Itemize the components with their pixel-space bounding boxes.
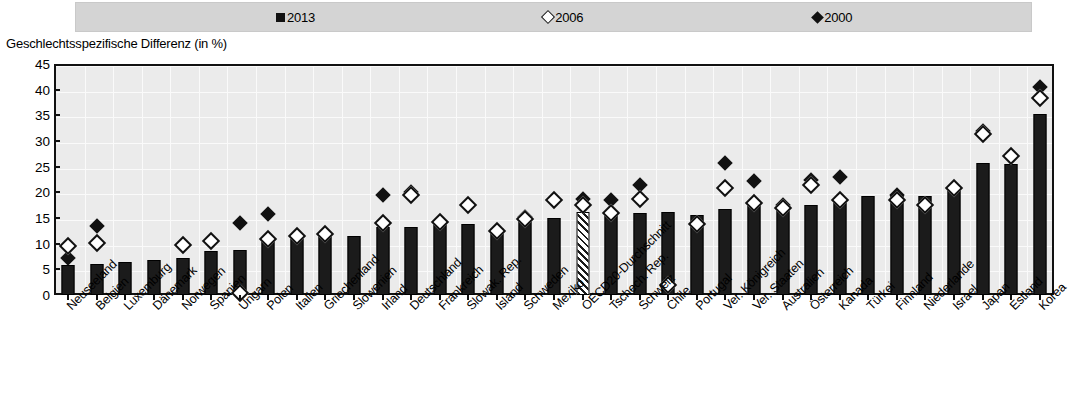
- data-series-layer: [54, 64, 1054, 295]
- chart-column[interactable]: [968, 64, 997, 295]
- chart-column[interactable]: [883, 64, 912, 295]
- marker-2006[interactable]: [173, 236, 191, 254]
- y-axis-title: Geschlechtsspezifische Differenz (in %): [6, 36, 227, 51]
- y-axis-tick: [54, 268, 60, 270]
- legend-item-2006: 2006: [543, 10, 583, 25]
- marker-2000[interactable]: [261, 206, 277, 222]
- marker-2006[interactable]: [631, 189, 649, 207]
- marker-2000[interactable]: [375, 187, 391, 203]
- legend-item-2000: 2000: [813, 10, 852, 25]
- chart-column[interactable]: [111, 64, 140, 295]
- bar-2013[interactable]: [1033, 114, 1046, 295]
- legend-label-2000: 2000: [824, 10, 852, 25]
- y-axis-tick-label: 40: [20, 82, 50, 97]
- chart-column[interactable]: [911, 64, 940, 295]
- chart-column[interactable]: [311, 64, 340, 295]
- y-axis-tick-label: 20: [20, 185, 50, 200]
- bar-2013[interactable]: [62, 265, 75, 295]
- chart-column[interactable]: [283, 64, 312, 295]
- chart-column[interactable]: [997, 64, 1026, 295]
- legend-label-2006: 2006: [555, 10, 583, 25]
- x-axis-labels: NeuseelandBelgienLuxemburgDänemarkNorweg…: [54, 297, 1054, 409]
- y-axis-tick: [54, 140, 60, 142]
- marker-2006[interactable]: [973, 125, 991, 143]
- chart-column[interactable]: [540, 64, 569, 295]
- chart-column[interactable]: [197, 64, 226, 295]
- chart-column[interactable]: [711, 64, 740, 295]
- y-axis-tick: [54, 166, 60, 168]
- marker-2000[interactable]: [89, 218, 105, 234]
- y-axis-tick-label: 45: [20, 57, 50, 72]
- marker-2000[interactable]: [718, 155, 734, 171]
- y-axis-tick-label: 30: [20, 134, 50, 149]
- chart-column[interactable]: [397, 64, 426, 295]
- marker-2006[interactable]: [459, 196, 477, 214]
- bar-2013[interactable]: [405, 227, 418, 295]
- marker-2006[interactable]: [88, 233, 106, 251]
- y-axis-tick: [54, 243, 60, 245]
- marker-2000[interactable]: [832, 169, 848, 185]
- marker-2006[interactable]: [545, 191, 563, 209]
- y-axis-tick-label: 10: [20, 236, 50, 251]
- marker-2000[interactable]: [232, 215, 248, 231]
- marker-2006[interactable]: [716, 179, 734, 197]
- chart-column[interactable]: [168, 64, 197, 295]
- bar-2013[interactable]: [1005, 164, 1018, 295]
- y-axis-tick: [54, 217, 60, 219]
- y-axis-tick: [54, 89, 60, 91]
- chart-column[interactable]: [568, 64, 597, 295]
- chart-column[interactable]: [54, 64, 83, 295]
- chart-legend: 2013 2006 2000: [75, 2, 1032, 32]
- chart-column[interactable]: [683, 64, 712, 295]
- y-axis-tick-label: 35: [20, 108, 50, 123]
- y-axis-tick: [54, 114, 60, 116]
- open-diamond-icon: [541, 10, 555, 24]
- filled-diamond-icon: [811, 11, 824, 24]
- chart-column[interactable]: [254, 64, 283, 295]
- chart-column[interactable]: [825, 64, 854, 295]
- marker-2006[interactable]: [59, 237, 77, 255]
- marker-2006[interactable]: [1031, 89, 1049, 107]
- chart-column[interactable]: [1025, 64, 1054, 295]
- bar-2013[interactable]: [976, 163, 989, 295]
- y-axis-tick-label: 0: [20, 288, 50, 303]
- bar-2013[interactable]: [519, 219, 532, 295]
- legend-item-2013: 2013: [276, 10, 315, 25]
- y-axis-labels: 051015202530354045: [18, 64, 50, 295]
- marker-2000[interactable]: [746, 173, 762, 189]
- filled-square-icon: [276, 13, 285, 22]
- marker-2006[interactable]: [1002, 147, 1020, 165]
- y-axis-tick-label: 15: [20, 211, 50, 226]
- y-axis-tick-label: 25: [20, 159, 50, 174]
- marker-2006[interactable]: [202, 232, 220, 250]
- chart-column[interactable]: [225, 64, 254, 295]
- y-axis-tick-label: 5: [20, 262, 50, 277]
- bar-2013[interactable]: [890, 195, 903, 295]
- marker-2006[interactable]: [402, 186, 420, 204]
- y-axis-tick: [54, 191, 60, 193]
- legend-label-2013: 2013: [287, 10, 315, 25]
- chart-column[interactable]: [854, 64, 883, 295]
